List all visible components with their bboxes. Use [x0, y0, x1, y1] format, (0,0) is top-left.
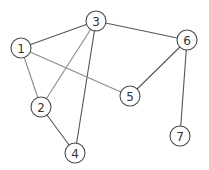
edge-3-6: [96, 21, 187, 40]
node-7: 7: [170, 126, 190, 146]
node-5: 5: [120, 86, 140, 106]
edge-6-5: [130, 40, 187, 96]
node-6: 6: [177, 30, 197, 50]
node-label: 4: [71, 147, 79, 161]
edge-2-3: [41, 21, 96, 107]
edges-layer: [21, 21, 187, 153]
node-3: 3: [86, 11, 106, 31]
node-label: 1: [17, 42, 25, 56]
edge-3-4: [75, 21, 96, 153]
node-label: 6: [183, 34, 191, 48]
nodes-layer: 1234567: [11, 11, 197, 163]
edge-6-7: [180, 40, 187, 136]
node-label: 5: [126, 90, 134, 104]
edge-1-5: [21, 48, 130, 96]
node-4: 4: [65, 143, 85, 163]
node-1: 1: [11, 38, 31, 58]
node-label: 2: [37, 101, 45, 115]
node-label: 3: [92, 15, 100, 29]
node-label: 7: [176, 130, 184, 144]
edge-1-3: [21, 21, 96, 48]
node-2: 2: [31, 97, 51, 117]
graph-diagram: 1234567: [0, 0, 209, 170]
